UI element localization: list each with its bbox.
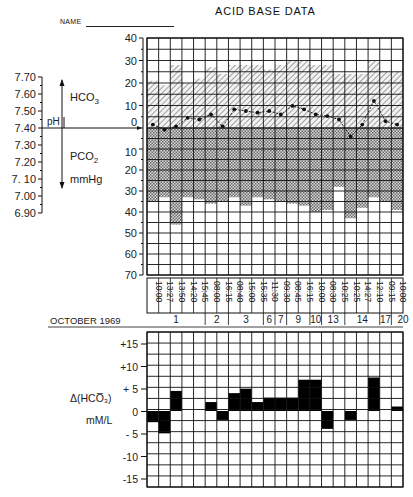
pco2-tick-label: 20	[125, 164, 137, 176]
ph-point	[186, 116, 190, 120]
negative-delta-bar	[217, 411, 229, 420]
delta-tick-label: -10	[123, 451, 138, 463]
pco2-label: PCO2	[70, 150, 99, 165]
hco3-tick-label: 30	[125, 55, 137, 67]
ph-point	[232, 107, 236, 111]
time-label: 10:00	[398, 281, 408, 303]
positive-delta-bar	[310, 380, 322, 411]
hco3-bar	[322, 65, 334, 128]
hco3-bar	[356, 74, 368, 128]
ph-point	[349, 135, 353, 139]
positive-delta-bar	[240, 389, 252, 411]
positive-delta-bar	[275, 398, 287, 411]
ph-point	[197, 118, 201, 122]
day-label: 2	[214, 314, 220, 325]
delta-tick-label: - 5	[126, 428, 138, 440]
positive-delta-bar	[298, 380, 310, 411]
positive-delta-bar	[170, 391, 182, 411]
pco2-bar	[345, 128, 357, 218]
hco3-bar	[310, 65, 322, 128]
hco3-tick-label: 10	[125, 100, 137, 112]
day-label: 6	[266, 314, 272, 325]
delta-tick-label: + 5	[123, 383, 138, 395]
delta-tick-label: -15	[123, 473, 138, 485]
pco2-bar	[356, 128, 368, 208]
hco3-bar	[147, 81, 159, 128]
ph-point	[314, 113, 318, 117]
ph-point	[360, 123, 364, 127]
pco2-tick-label: 70	[125, 269, 137, 281]
arrow-down-icon	[60, 182, 65, 189]
ph-tick-label: 7.50	[15, 105, 36, 117]
day-label: 9	[295, 314, 301, 325]
ph-point	[395, 123, 399, 127]
day-label: 20	[397, 314, 409, 325]
hco3-bar	[252, 65, 264, 128]
pco2-bar	[240, 128, 252, 206]
ph-point	[325, 114, 329, 118]
hco3-tick-label: 20	[125, 77, 137, 89]
hco3-bar	[228, 65, 240, 128]
day-label: 1	[173, 314, 179, 325]
ph-point	[337, 118, 341, 122]
hco3-tick-label: 0	[131, 116, 137, 128]
delta-unit-label: mM/L	[86, 414, 112, 426]
negative-delta-bar	[322, 411, 334, 429]
pco2-unit-label: mmHg	[70, 173, 102, 185]
ph-tick-label: 7.60	[15, 88, 36, 100]
positive-delta-bar	[368, 378, 380, 412]
day-label: 17	[380, 314, 392, 325]
hco3-bar	[170, 65, 182, 128]
pco2-bar	[147, 128, 159, 202]
ph-point	[221, 124, 225, 128]
ph-label: pH	[47, 116, 60, 127]
pco2-bar	[322, 128, 334, 210]
pco2-bar	[287, 128, 299, 204]
pco2-bar	[275, 128, 287, 202]
ph-point	[279, 113, 283, 117]
pco2-bar	[217, 128, 229, 202]
hco3-bar	[275, 65, 287, 128]
day-label: 3	[243, 314, 249, 325]
pco2-tick-label: 10	[125, 146, 137, 158]
delta-tick-label: 0	[132, 406, 138, 418]
ph-tick-label: 7.70	[15, 71, 36, 83]
ph-tick-label: 6.90	[15, 207, 36, 219]
pco2-bar	[170, 128, 182, 225]
ph-tick-label: 7.40	[15, 122, 36, 134]
ph-point	[267, 109, 271, 113]
ph-point	[163, 128, 167, 132]
ph-point	[384, 119, 388, 123]
pco2-bar	[391, 128, 403, 210]
hco3-label: HCO3	[70, 91, 99, 106]
positive-delta-bar	[228, 393, 240, 411]
pco2-bar	[333, 128, 345, 187]
hco3-bar	[159, 85, 171, 128]
ph-point	[174, 124, 178, 128]
pco2-bar	[298, 128, 310, 206]
day-label: 7	[278, 314, 284, 325]
pco2-tick-label: 50	[125, 227, 137, 239]
acid-base-chart: 403020100102030405060707.707.607.507.407…	[0, 0, 413, 497]
pco2-tick-label: 40	[125, 206, 137, 218]
hco3-tick-label: 40	[125, 32, 137, 44]
arrow-right-icon	[137, 126, 142, 130]
ph-point	[244, 109, 248, 113]
ph-point	[209, 113, 213, 117]
negative-delta-bar	[159, 411, 171, 433]
ph-tick-label: 7.00	[15, 190, 36, 202]
pco2-bar	[380, 128, 392, 202]
ph-tick-label: 7.20	[15, 156, 36, 168]
day-label: 14	[357, 314, 369, 325]
hco3-bar	[345, 74, 357, 128]
hco3-bar	[240, 65, 252, 128]
month-label: OCTOBER 1969	[50, 315, 121, 326]
ph-point	[151, 123, 155, 127]
day-label: 13	[328, 314, 340, 325]
pco2-tick-label: 60	[125, 248, 137, 260]
ph-point	[256, 111, 260, 115]
positive-delta-bar	[287, 398, 299, 411]
ph-tick-label: 7.30	[15, 139, 36, 151]
delta-tick-label: +10	[120, 361, 138, 373]
day-label: 10	[310, 314, 322, 325]
